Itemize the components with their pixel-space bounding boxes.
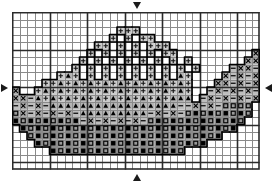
center-arrow-up-icon bbox=[133, 174, 141, 181]
center-arrow-left-icon bbox=[265, 84, 272, 92]
stitch-grid[interactable] bbox=[12, 12, 260, 170]
center-arrow-right-icon bbox=[1, 84, 8, 92]
pattern-chart-page bbox=[0, 0, 278, 185]
center-arrow-down-icon bbox=[133, 2, 141, 9]
stitch-grid-canvas[interactable] bbox=[12, 12, 260, 170]
